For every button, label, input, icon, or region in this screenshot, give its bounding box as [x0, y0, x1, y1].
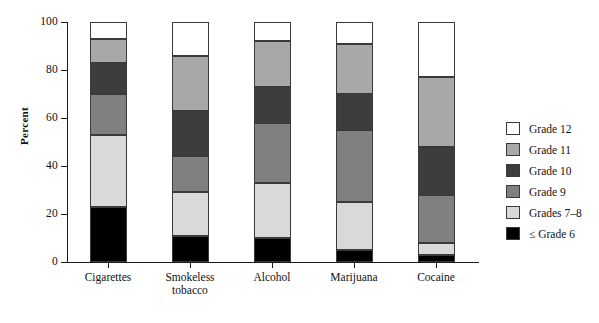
bar-segment: [336, 250, 373, 262]
bar-segment: [336, 22, 373, 44]
bar-segment: [418, 77, 455, 147]
bar-segment: [90, 63, 127, 94]
legend-item: Grade 9: [506, 181, 598, 202]
legend-swatch-icon: [506, 227, 520, 240]
bar-segment: [90, 22, 127, 39]
bar-segment: [90, 207, 127, 262]
bar-segment: [336, 44, 373, 94]
bar-segment: [418, 195, 455, 243]
bar-segment: [172, 111, 209, 157]
bar-segment: [172, 22, 209, 56]
bar-segment: [172, 236, 209, 262]
legend-item-label: Grade 9: [529, 186, 566, 198]
legend-item: ≤ Grade 6: [506, 223, 598, 244]
bar-segment: [254, 41, 291, 87]
x-axis-tick: [272, 262, 273, 268]
x-axis-tick: [354, 262, 355, 268]
bar-segment: [254, 87, 291, 123]
y-axis-tick-label: 20: [14, 208, 58, 220]
bar-smokeless-tobacco: [172, 22, 209, 262]
legend-item-label: Grade 11: [529, 144, 571, 156]
x-axis-category-label: Cocaine: [381, 271, 491, 284]
legend: Grade 12Grade 11Grade 10Grade 9Grades 7–…: [506, 118, 598, 244]
legend-swatch-icon: [506, 143, 520, 156]
legend-item: Grade 10: [506, 160, 598, 181]
y-axis-tick-label: 0: [14, 256, 58, 268]
x-axis-tick: [190, 262, 191, 268]
bar-segment: [336, 130, 373, 202]
bar-cocaine: [418, 22, 455, 262]
plot-area: [67, 22, 477, 262]
bar-segment: [172, 192, 209, 235]
legend-swatch-icon: [506, 185, 520, 198]
legend-item: Grade 11: [506, 139, 598, 160]
bar-marijuana: [336, 22, 373, 262]
legend-item-label: Grades 7–8: [529, 207, 582, 219]
y-axis-tick-labels: 020406080100: [8, 0, 58, 323]
x-axis-line: [67, 262, 479, 263]
legend-swatch-icon: [506, 164, 520, 177]
bar-segment: [90, 94, 127, 135]
legend-swatch-icon: [506, 122, 520, 135]
bar-segment: [254, 183, 291, 238]
legend-item-label: ≤ Grade 6: [529, 228, 575, 240]
y-axis-title: Percent: [18, 86, 30, 166]
legend-swatch-icon: [506, 206, 520, 219]
legend-item-label: Grade 12: [529, 123, 571, 135]
bar-alcohol: [254, 22, 291, 262]
bar-segment: [172, 56, 209, 111]
bar-segment: [418, 243, 455, 255]
bar-segment: [254, 22, 291, 41]
bar-segment: [90, 39, 127, 63]
x-axis-tick: [436, 262, 437, 268]
bar-segment: [418, 255, 455, 262]
bar-segment: [254, 123, 291, 183]
stacked-bar-chart: 020406080100 Percent CigarettesSmokeless…: [0, 0, 599, 323]
bar-segment: [254, 238, 291, 262]
legend-item: Grade 12: [506, 118, 598, 139]
bar-segment: [418, 147, 455, 195]
y-axis-tick-label: 80: [14, 64, 58, 76]
bar-segment: [418, 22, 455, 77]
legend-item-label: Grade 10: [529, 165, 571, 177]
bar-segment: [90, 135, 127, 207]
legend-item: Grades 7–8: [506, 202, 598, 223]
x-axis-tick: [108, 262, 109, 268]
bar-segment: [172, 156, 209, 192]
bar-segment: [336, 94, 373, 130]
bar-cigarettes: [90, 22, 127, 262]
y-axis-tick-label: 100: [14, 16, 58, 28]
bar-segment: [336, 202, 373, 250]
